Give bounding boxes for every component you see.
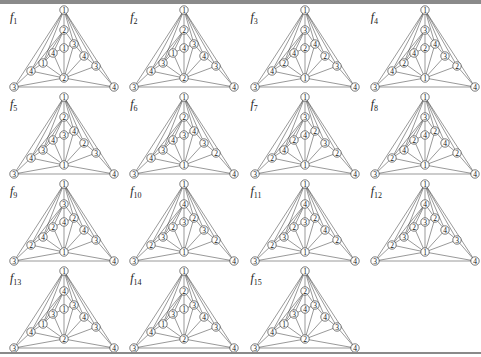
graph-node-R1: 3 (70, 40, 78, 49)
graph-node-center: 3 (180, 218, 188, 227)
svg-text:1: 1 (303, 74, 307, 83)
graph-node-hub: 2 (60, 74, 68, 83)
svg-text:2: 2 (402, 59, 406, 68)
svg-text:3: 3 (402, 233, 406, 242)
graph-node-center: 1 (180, 305, 188, 314)
svg-text:3: 3 (182, 131, 186, 140)
svg-text:4: 4 (149, 328, 153, 337)
graph-node-hub: 1 (421, 161, 429, 170)
svg-text:3: 3 (161, 233, 165, 242)
graph-node-R1: 2 (431, 127, 439, 136)
graph-edge (64, 78, 114, 87)
graph-node-R2: 3 (200, 139, 208, 148)
graph-node-L3: 2 (388, 154, 396, 163)
graph-edge (64, 66, 96, 78)
graph-node-apex: 1 (60, 180, 68, 189)
graph-node-center: 4 (60, 218, 68, 227)
graph-node-L2: 1 (39, 59, 47, 68)
graph-drawing: 123434423134 (0, 91, 120, 178)
graph-node-center: 1 (60, 305, 68, 314)
svg-text:4: 4 (149, 67, 153, 76)
graph-edge (184, 153, 216, 165)
graph-node-L1: 2 (49, 223, 57, 232)
graph-node-L3: 2 (27, 241, 35, 250)
svg-text:2: 2 (313, 214, 317, 223)
graph-node-center: 2 (300, 44, 308, 53)
graph-node-R3: 3 (92, 323, 100, 332)
graph-node-center: 3 (421, 218, 429, 227)
graph-node-R2: 4 (200, 313, 208, 322)
svg-text:2: 2 (335, 149, 339, 158)
graph-node-hub: 1 (60, 248, 68, 257)
graph-node-hub: 1 (421, 74, 429, 83)
graph-edge (184, 252, 234, 261)
svg-text:3: 3 (323, 139, 327, 148)
svg-text:3: 3 (423, 218, 427, 227)
svg-text:1: 1 (423, 180, 427, 189)
graph-node-L2: 1 (39, 320, 47, 329)
svg-text:2: 2 (192, 214, 196, 223)
svg-text:3: 3 (303, 26, 307, 35)
graph-node-hub: 2 (180, 335, 188, 344)
graph-drawing: 121314343234 (120, 265, 240, 352)
svg-text:4: 4 (390, 67, 394, 76)
svg-text:1: 1 (423, 74, 427, 83)
graph-node-center: 1 (60, 44, 68, 53)
graph-node-R2: 4 (320, 226, 328, 235)
graph-edge (134, 78, 184, 87)
svg-text:3: 3 (62, 200, 66, 209)
svg-text:3: 3 (94, 62, 98, 71)
svg-text:4: 4 (51, 49, 55, 58)
svg-text:2: 2 (29, 241, 33, 250)
graph-edge (184, 339, 234, 348)
graph-edge (64, 327, 96, 339)
graph-edge (305, 327, 337, 339)
graph-node-R2: 3 (320, 139, 328, 148)
svg-text:2: 2 (282, 59, 286, 68)
graph-node-R3: 3 (212, 323, 220, 332)
svg-text:1: 1 (303, 180, 307, 189)
graph-drawing: 134242242134 (361, 91, 481, 178)
svg-text:2: 2 (455, 149, 459, 158)
graph-node-L1: 2 (289, 136, 297, 145)
graph-node-hub: 2 (180, 74, 188, 83)
svg-text:2: 2 (182, 113, 186, 122)
graph-edge (64, 240, 96, 252)
graph-node-top2: 3 (421, 113, 429, 122)
graph-drawing: 134242232134 (241, 91, 361, 178)
graph-node-L2: 3 (159, 233, 167, 242)
svg-text:1: 1 (303, 267, 307, 276)
graph-node-R1: 4 (70, 127, 78, 136)
svg-text:1: 1 (282, 320, 286, 329)
graph-node-R3: 2 (332, 149, 340, 158)
graph-node-R3: 2 (332, 236, 340, 245)
graph-node-center: 4 (180, 44, 188, 53)
graph-node-top2: 2 (60, 113, 68, 122)
graph-node-hub: 1 (300, 74, 308, 83)
graph-node-center: 3 (300, 218, 308, 227)
svg-text:1: 1 (171, 49, 175, 58)
graph-node-L2: 3 (159, 59, 167, 68)
svg-text:4: 4 (303, 131, 307, 140)
svg-text:4: 4 (62, 287, 66, 296)
graph-node-R2: 4 (441, 226, 449, 235)
svg-text:4: 4 (149, 154, 153, 163)
graph-node-top2: 2 (180, 113, 188, 122)
svg-text:2: 2 (303, 44, 307, 53)
coloring-panel-f5: f5123434423134 (0, 91, 120, 178)
graph-edge (14, 10, 64, 87)
graph-edge (425, 78, 475, 87)
graph-edge (375, 184, 425, 261)
coloring-panel-f7: f7134242232134 (241, 91, 361, 178)
graph-node-apex: 1 (300, 180, 308, 189)
svg-text:4: 4 (62, 218, 66, 227)
graph-node-apex: 1 (180, 267, 188, 276)
graph-node-R3: 2 (453, 62, 461, 71)
bottom-rule (0, 352, 481, 354)
graph-edge (425, 66, 457, 78)
graph-node-R2: 4 (80, 52, 88, 61)
svg-text:1: 1 (62, 6, 66, 15)
graph-edge (14, 252, 64, 261)
svg-text:1: 1 (182, 6, 186, 15)
graph-node-L1: 4 (49, 136, 57, 145)
